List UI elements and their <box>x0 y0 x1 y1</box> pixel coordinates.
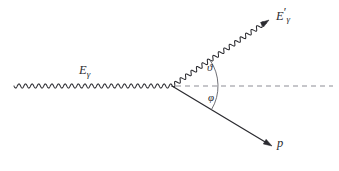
diagram-canvas <box>0 0 339 171</box>
incident-photon-wavy-line <box>14 84 172 88</box>
scattering-angle-symbol: ϑ <box>207 61 212 73</box>
scattered-energy-symbol: E <box>276 9 284 23</box>
proton-symbol: p <box>277 136 283 150</box>
scattered-energy-prime: ′ <box>284 5 287 19</box>
scattered-photon-wavy-line <box>172 22 266 87</box>
label-recoil-angle: φ <box>208 92 214 103</box>
proton-momentum-line <box>172 86 268 143</box>
incident-energy-subscript: γ <box>87 69 91 79</box>
label-incident-photon-energy: Eγ <box>79 64 90 79</box>
compton-scattering-diagram: Eγ E′γ p ϑ φ <box>0 0 339 171</box>
proton-arrowhead-icon <box>263 139 272 146</box>
label-scattered-photon-energy: E′γ <box>276 7 290 24</box>
recoil-angle-symbol: φ <box>208 91 214 103</box>
scattered-energy-subscript: γ <box>287 14 291 24</box>
label-recoil-proton: p <box>277 137 283 150</box>
incident-energy-symbol: E <box>79 63 87 77</box>
label-scattering-angle: ϑ <box>207 62 212 73</box>
